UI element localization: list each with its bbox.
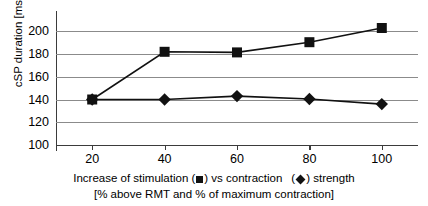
x-tick-label-80: 80	[302, 152, 316, 166]
series-line-0	[92, 28, 382, 100]
x-caption-text-b: ) vs contraction	[204, 172, 282, 184]
y-tick-label-140: 140	[28, 93, 49, 107]
y-tick-label-120: 120	[28, 115, 49, 129]
data-point-diamond-60	[231, 90, 243, 102]
x-tick-label-20: 20	[85, 152, 99, 166]
y-axis-title: cSP duration [ms]	[12, 0, 24, 112]
data-point-square-80	[304, 37, 314, 47]
x-tick-label-60: 60	[230, 152, 244, 166]
data-point-square-100	[377, 23, 387, 33]
y-tick-label-100: 100	[28, 138, 49, 152]
data-point-square-40	[160, 47, 170, 57]
x-caption-text-a: Increase of stimulation (	[73, 172, 195, 184]
x-tick-60	[237, 145, 238, 150]
y-tick-label-180: 180	[28, 47, 49, 61]
square-marker-icon	[196, 176, 203, 183]
x-caption-text-c: ) strength	[306, 172, 355, 184]
data-point-diamond-40	[158, 93, 170, 105]
x-tick-40	[165, 145, 166, 150]
x-tick-label-100: 100	[371, 152, 392, 166]
x-tick-80	[309, 145, 310, 150]
data-point-diamond-100	[376, 98, 388, 110]
series-layer	[56, 20, 418, 145]
chart-figure: cSP duration [ms] 100120140160180200 204…	[0, 0, 428, 206]
x-caption-paren-open: (	[291, 172, 295, 184]
x-tick-20	[92, 145, 93, 150]
x-axis-caption-line-1: Increase of stimulation () vs contractio…	[0, 170, 428, 186]
x-axis-caption-line-2: [% above RMT and % of maximum contractio…	[0, 186, 428, 202]
plot-area: 100120140160180200 20406080100	[56, 20, 418, 145]
data-point-diamond-80	[303, 93, 315, 105]
diamond-marker-icon	[296, 175, 306, 185]
y-tick-label-200: 200	[28, 24, 49, 38]
x-axis-caption: Increase of stimulation () vs contractio…	[0, 170, 428, 202]
x-tick-100	[382, 145, 383, 150]
y-tick-label-160: 160	[28, 70, 49, 84]
data-point-square-60	[232, 47, 242, 57]
x-tick-label-40: 40	[158, 152, 172, 166]
